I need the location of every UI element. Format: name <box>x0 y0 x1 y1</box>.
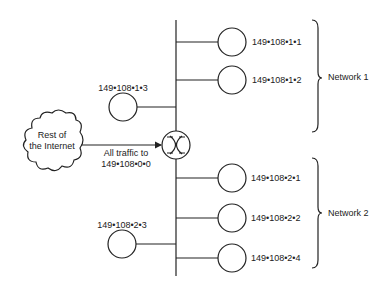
host-149-108-2-4 <box>218 244 246 272</box>
network1-label: Network 1 <box>328 72 369 83</box>
host-label: 149•108•1•3 <box>98 83 148 94</box>
host-149-108-2-1 <box>218 164 246 192</box>
network2-brace <box>312 158 322 268</box>
router-icon <box>162 131 190 159</box>
host-149-108-2-3 <box>108 230 136 258</box>
host-label: 149•108•2•2 <box>251 213 301 224</box>
host-label: 149•108•2•1 <box>251 173 301 184</box>
host-label: 149•108•1•1 <box>252 37 302 48</box>
host-149-108-1-1 <box>218 28 246 56</box>
host-label: 149•108•2•4 <box>251 253 301 264</box>
cloud-label-line2: the Internet <box>29 141 75 152</box>
host-149-108-1-2 <box>218 66 246 94</box>
host-149-108-1-3 <box>109 93 137 121</box>
cloud-label-line1: Rest of <box>38 130 67 141</box>
network2-label: Network 2 <box>328 208 369 219</box>
arrow-label-line2: 149•108•0•0 <box>101 159 151 170</box>
host-149-108-2-2 <box>218 204 246 232</box>
host-label: 149•108•1•2 <box>252 75 302 86</box>
network1-brace <box>312 20 322 132</box>
arrow-label-line1: All traffic to <box>104 148 148 159</box>
host-label: 149•108•2•3 <box>97 220 147 231</box>
